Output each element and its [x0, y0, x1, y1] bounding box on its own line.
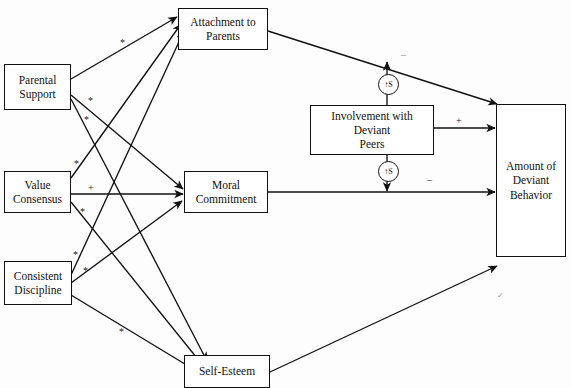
edge-label-attachment-deviant: – — [401, 50, 406, 60]
node-involvement-deviant-peers-label: Involvement with Deviant Peers — [328, 109, 415, 151]
node-attachment-to-parents-label: Attachment to Parents — [187, 15, 258, 43]
edge-label-vc-attachment: * — [74, 159, 79, 169]
edge-consistent-discipline-to-attachment — [71, 31, 184, 275]
edge-label-vc-moral: + — [88, 183, 94, 193]
node-consistent-discipline-label: Consistent Discipline — [11, 269, 66, 297]
edge-label-cd-moral: * — [83, 266, 88, 276]
node-amount-deviant-behavior-label: Amount of Deviant Behavior — [503, 159, 559, 201]
node-parental-support[interactable]: Parental Support — [4, 64, 71, 110]
edge-parental-support-to-moral — [71, 95, 183, 189]
node-self-esteem-label: Self-Esteem — [196, 364, 258, 378]
node-value-consensus[interactable]: Value Consensus — [4, 171, 71, 213]
node-consistent-discipline[interactable]: Consistent Discipline — [4, 261, 72, 305]
node-moral-commitment[interactable]: Moral Commitment — [184, 171, 268, 213]
badge-suppressor-bottom: ↑S — [378, 161, 399, 182]
node-involvement-deviant-peers[interactable]: Involvement with Deviant Peers — [310, 105, 434, 155]
diagram-edges-layer — [0, 0, 571, 388]
badge-suppressor-top: ↑S — [378, 74, 399, 95]
badge-suppressor-bottom-label: ↑S — [384, 167, 392, 176]
edge-label-vc-selfesteem: * — [80, 207, 85, 217]
edge-label-cd-selfesteem: * — [119, 327, 124, 337]
node-amount-deviant-behavior[interactable]: Amount of Deviant Behavior — [496, 104, 566, 257]
node-parental-support-label: Parental Support — [16, 73, 60, 101]
edge-label-selfesteem-deviant: ✓ — [497, 292, 504, 300]
edge-parental-support-to-attachment — [71, 17, 177, 79]
edge-self-esteem-to-deviant-behavior — [270, 266, 497, 372]
causal-path-diagram: Parental Support Value Consensus Consist… — [0, 0, 571, 388]
node-moral-commitment-label: Moral Commitment — [193, 178, 260, 206]
edge-label-peers-deviant: + — [456, 116, 462, 126]
edge-label-moral-deviant: – — [427, 175, 432, 185]
edge-label-ps-moral: * — [88, 96, 93, 106]
node-self-esteem[interactable]: Self-Esteem — [184, 355, 270, 388]
edge-label-ps-selfesteem: * — [84, 115, 89, 125]
badge-suppressor-top-label: ↑S — [384, 80, 392, 89]
edge-label-ps-attachment: * — [120, 38, 125, 48]
node-attachment-to-parents[interactable]: Attachment to Parents — [178, 8, 268, 50]
node-value-consensus-label: Value Consensus — [10, 178, 65, 206]
edge-label-cd-attachment: * — [73, 250, 78, 260]
